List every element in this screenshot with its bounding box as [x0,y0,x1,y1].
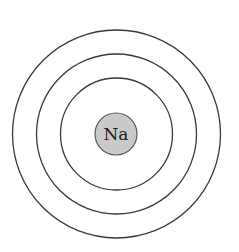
nucleus-element-label: Na [96,122,136,146]
